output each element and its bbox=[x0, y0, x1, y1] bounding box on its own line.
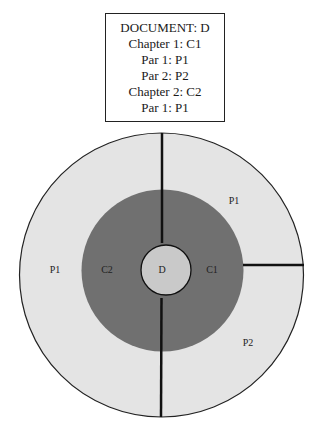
label-chapter-1: C1 bbox=[206, 264, 218, 275]
label-ch1-par-1: P1 bbox=[229, 195, 240, 206]
divider-bottom bbox=[161, 298, 162, 417]
document-structure-diagram: D C1 C2 P1 P2 P1 bbox=[0, 0, 320, 431]
label-document: D bbox=[158, 264, 165, 275]
document-center bbox=[141, 245, 191, 295]
label-ch1-par-2: P2 bbox=[243, 337, 254, 348]
label-ch2-par-1: P1 bbox=[50, 264, 61, 275]
label-chapter-2: C2 bbox=[101, 264, 113, 275]
